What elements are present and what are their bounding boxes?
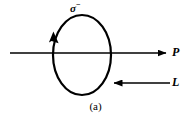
figure-caption: (a) (0, 101, 191, 112)
sigma-minus-label: σ− (70, 1, 81, 14)
figure-container: σ− P L (a) (0, 0, 191, 121)
angular-momentum-label: L (172, 76, 179, 88)
sigma-charge-superscript: − (76, 0, 81, 9)
loop-ellipse (53, 15, 111, 95)
spin-loop (49, 15, 111, 95)
momentum-label: P (172, 46, 179, 58)
